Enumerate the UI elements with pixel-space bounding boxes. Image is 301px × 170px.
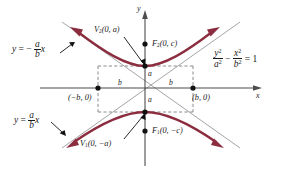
point-vertex-upper — [142, 63, 147, 68]
point-b-right-label: (b, 0) — [192, 94, 210, 102]
equation-rhs: 1 — [253, 54, 258, 64]
equation-minus-sign: − — [225, 54, 230, 64]
segment-label-b-left: b — [118, 79, 122, 87]
figure-canvas — [0, 0, 301, 170]
segment-label-b-right: b — [169, 79, 173, 87]
asymptote-2-equals: = — [21, 115, 26, 125]
leader-asymptote-neg-head — [69, 42, 75, 47]
point-b-left-label: (−b, 0) — [68, 94, 92, 102]
asymptote-1-equals: = — [19, 44, 24, 54]
focus-lower-label: F1(0, −c) — [152, 127, 183, 135]
leader-v1 — [124, 116, 143, 139]
x-axis-arrowhead — [253, 85, 262, 91]
hyperbola-equation: y2 a2 − x2 b2 = 1 — [213, 48, 257, 71]
vertex-upper-label: V2(0, a) — [94, 26, 120, 34]
asymptote-1-sign: − — [26, 44, 31, 54]
equation-left-fraction: y2 a2 — [213, 48, 223, 71]
y-axis-label: y — [137, 5, 141, 13]
point-b-right — [190, 85, 195, 90]
equation-left-numerator: y2 — [213, 48, 223, 59]
point-vertex-lower — [142, 109, 147, 114]
segment-label-a-upper: a — [148, 70, 152, 78]
asymptote-2-fraction: a b — [28, 111, 35, 131]
hyperbola-figure: y x y2 a2 − x2 b2 = 1 y = − a b x y = a … — [0, 0, 301, 170]
equation-right-denominator: b2 — [233, 58, 243, 70]
leader-asymptote-pos — [51, 122, 63, 133]
y-axis-arrowhead — [142, 10, 148, 19]
equation-left-denominator: a2 — [213, 58, 223, 70]
segment-label-a-lower: a — [148, 96, 152, 104]
x-axis-label: x — [256, 92, 260, 100]
asymptote-label-positive: y = a b x — [14, 111, 39, 131]
equation-right-fraction: x2 b2 — [233, 48, 243, 71]
point-focus-lower — [142, 128, 147, 133]
asymptote-1-fraction: a b — [34, 40, 41, 60]
leader-v2 — [124, 37, 143, 63]
focus-upper-label: F2(0, c) — [152, 40, 177, 48]
leader-asymptote-neg — [60, 44, 72, 53]
vertex-lower-label: V1(0, −a) — [80, 140, 111, 148]
equation-right-numerator: x2 — [233, 48, 243, 59]
asymptote-label-negative: y = − a b x — [12, 40, 45, 60]
point-b-left — [95, 85, 100, 90]
point-focus-upper — [142, 41, 147, 46]
equation-equals-sign: = — [245, 54, 250, 64]
